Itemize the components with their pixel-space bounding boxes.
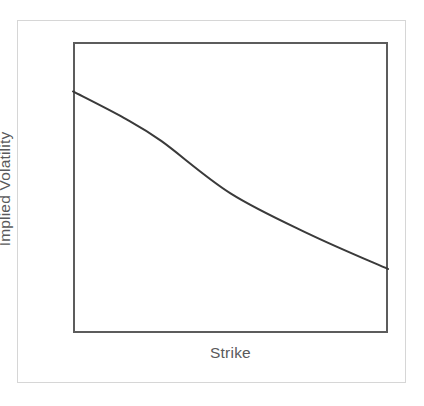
implied-volatility-curve [73,91,388,269]
chart-plot-svg [73,42,388,333]
y-axis-label: Implied Volatility [0,129,15,246]
x-axis-label: Strike [73,344,388,362]
y-axis-label-container: Implied Volatility [0,42,64,333]
chart-figure: Implied Volatility Strike [0,0,424,406]
